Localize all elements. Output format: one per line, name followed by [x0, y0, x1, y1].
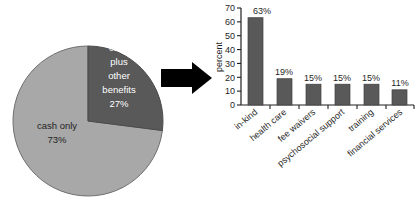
y-axis-title: percent	[214, 41, 224, 72]
y-tick-label-40: 40	[225, 45, 235, 55]
bar-value-psychosocial-support: 15%	[333, 73, 351, 83]
bar-training[interactable]	[364, 84, 379, 105]
figure-root: cash plus other benefits 27% cash only 7…	[0, 0, 420, 223]
bar-value-fee-waivers: 15%	[304, 73, 322, 83]
y-tick-label-20: 20	[225, 73, 235, 83]
bar-health-care[interactable]	[277, 79, 292, 105]
y-tick-label-0: 0	[230, 100, 235, 110]
y-tick-label-70: 70	[225, 3, 235, 13]
y-tick-label-10: 10	[225, 86, 235, 96]
y-tick-label-30: 30	[225, 59, 235, 69]
bar-psychosocial-support[interactable]	[335, 84, 350, 105]
x-category-label-in-kind[interactable]: in-kind	[233, 107, 260, 132]
bar-fee-waivers[interactable]	[306, 84, 321, 105]
bar-chart: 0 10 20 30 40 50 60 70 percent 63% 19% 1…	[0, 0, 420, 223]
bar-value-training: 15%	[362, 73, 380, 83]
bar-financial-services[interactable]	[392, 90, 407, 105]
y-tick-label-50: 50	[225, 31, 235, 41]
bar-in-kind[interactable]	[248, 18, 263, 105]
bar-value-financial-services: 11%	[391, 78, 408, 88]
bar-value-in-kind: 63%	[253, 6, 271, 16]
y-tick-label-60: 60	[225, 17, 235, 27]
bar-value-health-care: 19%	[275, 67, 293, 77]
